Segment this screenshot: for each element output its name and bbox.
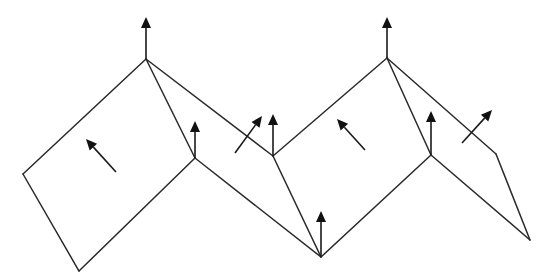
- mesh-normals-diagram: [0, 0, 554, 279]
- mesh-edge-GH: [387, 58, 431, 155]
- mesh-edge-EG: [273, 58, 387, 156]
- vertex-normal-arrow-E: [268, 114, 278, 156]
- vertex-normal-arrow-G: [382, 17, 392, 58]
- mesh-edge-BD: [79, 158, 195, 271]
- arrow-head-icon: [316, 211, 326, 222]
- mesh-edge-HJ: [431, 155, 530, 240]
- mesh-edge-CE: [146, 59, 273, 156]
- arrow-head-icon: [382, 17, 392, 28]
- mesh-edge-GI: [387, 58, 496, 154]
- arrow-head-icon: [268, 114, 278, 125]
- arrow-head-icon: [426, 111, 436, 122]
- mesh-edge-IJ: [496, 154, 530, 240]
- mesh-edge-AC: [23, 59, 146, 174]
- arrow-head-icon: [141, 17, 151, 28]
- face-normal-arrow-E-F-H-G: [337, 119, 365, 150]
- vertex-normal-arrow-C: [141, 17, 151, 59]
- arrow-head-icon: [251, 116, 262, 128]
- face-normal-arrow-C-D-F-E: [235, 116, 262, 153]
- arrow-head-icon: [190, 121, 200, 132]
- mesh-edges: [23, 58, 530, 271]
- mesh-edge-DF: [195, 158, 321, 257]
- mesh-edge-AB: [23, 174, 79, 271]
- face-normal-arrow-A-B-D-C: [86, 139, 116, 172]
- mesh-edge-EF: [273, 156, 321, 257]
- mesh-edge-CD: [146, 59, 195, 158]
- mesh-edge-FH: [321, 155, 431, 257]
